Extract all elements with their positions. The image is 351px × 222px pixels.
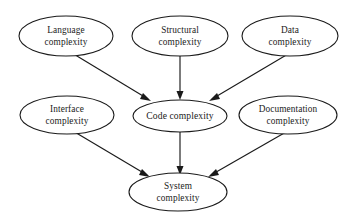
arrow-head-data-code: [209, 93, 220, 101]
edge-interface-to-system: [73, 131, 150, 177]
edge-line-interface-system: [73, 131, 147, 175]
arrow-head-documentation-system: [208, 169, 219, 177]
arrow-head-structural-code: [177, 91, 184, 100]
label-interface-complexity-line1: Interface: [50, 104, 84, 114]
node-documentation-complexity[interactable]: Documentation complexity: [239, 96, 337, 134]
arrow-head-interface-system: [139, 169, 150, 177]
edge-line-data-code: [212, 54, 288, 99]
label-language-complexity-line2: complexity: [45, 37, 88, 47]
node-system-complexity[interactable]: System complexity: [129, 173, 227, 211]
complexity-diagram: Language complexity Structural complexit…: [0, 0, 351, 222]
label-documentation-complexity-line1: Documentation: [259, 104, 318, 114]
ellipse-documentation-complexity[interactable]: [239, 96, 337, 134]
ellipse-structural-complexity[interactable]: [132, 16, 228, 56]
edge-structural-to-code: [177, 56, 184, 100]
label-data-complexity-line2: complexity: [269, 37, 312, 47]
edge-language-to-code: [72, 53, 151, 101]
node-interface-complexity[interactable]: Interface complexity: [20, 96, 114, 134]
label-language-complexity-line1: Language: [47, 25, 84, 35]
ellipse-system-complexity[interactable]: [129, 173, 227, 211]
node-structural-complexity[interactable]: Structural complexity: [132, 16, 228, 56]
label-structural-complexity-line2: complexity: [159, 37, 202, 47]
label-interface-complexity-line2: complexity: [46, 116, 89, 126]
edge-line-language-code: [72, 53, 148, 99]
ellipse-language-complexity[interactable]: [19, 16, 113, 56]
diagram-canvas: Language complexity Structural complexit…: [0, 0, 351, 222]
edge-documentation-to-system: [208, 132, 286, 177]
ellipse-interface-complexity[interactable]: [20, 96, 114, 134]
ellipse-data-complexity[interactable]: [242, 16, 338, 56]
label-documentation-complexity-line2: complexity: [267, 116, 310, 126]
label-system-complexity-line2: complexity: [157, 193, 200, 203]
edge-line-documentation-system: [211, 132, 286, 175]
label-code-complexity: Code complexity: [146, 110, 213, 121]
label-system-complexity-line1: System: [164, 181, 193, 191]
nodes-group: Language complexity Structural complexit…: [19, 16, 338, 211]
node-language-complexity[interactable]: Language complexity: [19, 16, 113, 56]
node-data-complexity[interactable]: Data complexity: [242, 16, 338, 56]
edge-data-to-code: [209, 54, 288, 101]
node-code-complexity[interactable]: Code complexity: [133, 100, 227, 132]
label-data-complexity-line1: Data: [281, 25, 299, 35]
label-structural-complexity-line1: Structural: [161, 25, 199, 35]
arrow-head-language-code: [140, 93, 151, 101]
edge-code-to-system: [177, 132, 184, 175]
